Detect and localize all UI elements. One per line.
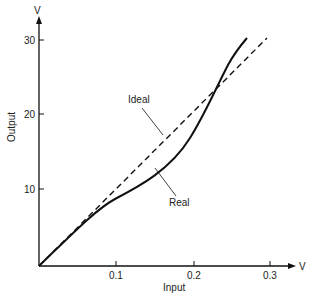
x-unit: V — [299, 261, 306, 272]
x-tick-0.1: 0.1 — [109, 270, 123, 281]
ideal-annotation: Ideal — [128, 94, 150, 105]
y-tick-20: 20 — [24, 109, 36, 120]
real-curve — [39, 38, 247, 266]
y-axis-label: Output — [6, 112, 17, 142]
real-annotation: Real — [169, 197, 190, 208]
x-axis-arrow-icon — [288, 263, 296, 269]
y-unit: V — [34, 5, 41, 16]
y-tick-10: 10 — [24, 184, 36, 195]
chart: V V 10 20 30 0.1 0.2 0.3 Input Output Id… — [0, 0, 309, 299]
y-tick-30: 30 — [24, 35, 36, 46]
x-tick-0.2: 0.2 — [187, 270, 201, 281]
x-axis-label: Input — [163, 282, 185, 293]
y-axis-arrow-icon — [36, 16, 42, 24]
x-tick-0.3: 0.3 — [263, 270, 277, 281]
